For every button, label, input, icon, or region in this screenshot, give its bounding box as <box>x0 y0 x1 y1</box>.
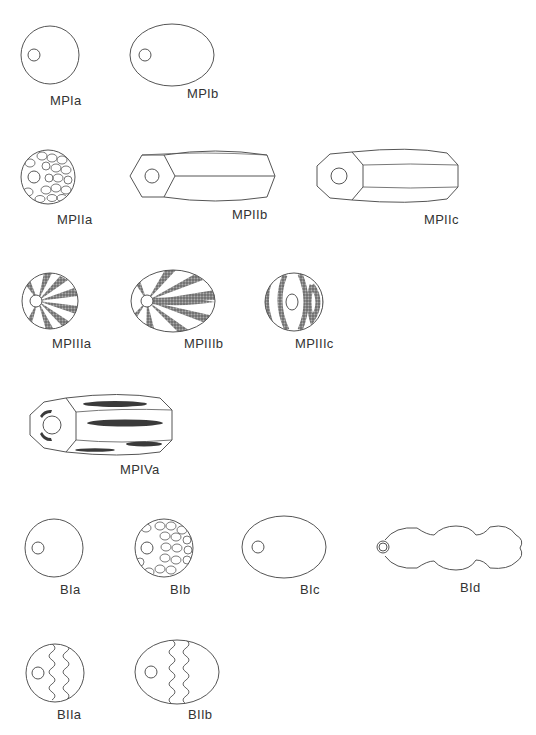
label-MPIIIb: MPIIIb <box>184 336 223 351</box>
bead-typology-drawing <box>0 0 536 735</box>
label-BIc: BIc <box>300 582 320 597</box>
label-MPIIa: MPIIa <box>57 212 92 227</box>
label-MPIIIc: MPIIIc <box>295 336 334 351</box>
label-BIIa: BIIa <box>57 707 81 722</box>
bead-MPIb <box>130 24 214 86</box>
bead-MPIIc <box>317 149 458 202</box>
label-MPIVa: MPIVa <box>120 462 160 477</box>
bead-MPIa <box>21 26 79 84</box>
label-MPIb: MPIb <box>187 86 219 101</box>
bead-MPIIb <box>130 151 275 201</box>
label-BId: BId <box>460 580 480 595</box>
bead-MPIIIa <box>22 273 78 330</box>
label-MPIa: MPIa <box>50 93 82 108</box>
figure-caption-cropped <box>80 727 480 735</box>
bead-MPIVa <box>30 395 172 456</box>
label-MPIIb: MPIIb <box>232 207 267 222</box>
bead-BIIa <box>26 644 84 702</box>
label-BIb: BIb <box>170 582 190 597</box>
bead-BIa <box>25 519 83 577</box>
bead-MPIIa <box>21 150 75 204</box>
bead-BId <box>377 526 522 570</box>
bead-MPIIIb <box>130 270 216 332</box>
label-MPIIIa: MPIIIa <box>52 336 91 351</box>
bead-MPIIIc <box>265 273 325 331</box>
bead-BIb <box>135 519 193 577</box>
label-MPIIc: MPIIc <box>424 212 459 227</box>
bead-BIc <box>242 516 326 578</box>
bead-BIIb <box>135 640 219 704</box>
label-BIIb: BIIb <box>188 707 212 722</box>
label-BIa: BIa <box>60 582 80 597</box>
